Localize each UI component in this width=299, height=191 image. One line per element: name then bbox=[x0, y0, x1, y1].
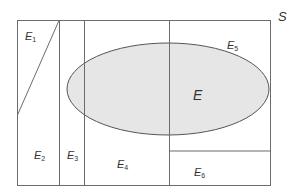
partition-venn-diagram: S E1 E5 E E2 E3 E4 E6 bbox=[0, 0, 299, 191]
diagonal-divider-e1-e2 bbox=[18, 21, 60, 116]
event-e-ellipse bbox=[67, 43, 269, 135]
partition-label-e5: E5 bbox=[227, 39, 238, 52]
partition-label-e2: E2 bbox=[34, 149, 45, 162]
event-label-e: E bbox=[193, 87, 203, 103]
partition-label-e6: E6 bbox=[194, 166, 205, 179]
partition-label-e1: E1 bbox=[25, 30, 36, 43]
sample-space-label: S bbox=[278, 9, 287, 24]
partition-label-e4: E4 bbox=[117, 158, 128, 171]
partition-label-e3: E3 bbox=[67, 149, 78, 162]
